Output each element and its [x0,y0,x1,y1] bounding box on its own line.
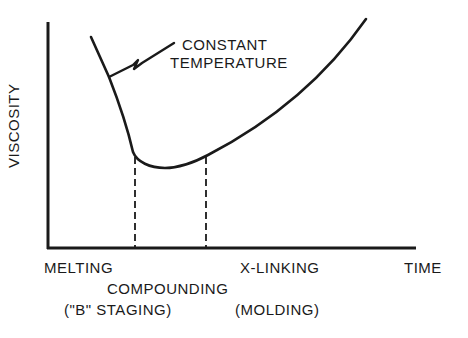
phase-label-compounding-sub: ("B" STAGING) [64,302,172,317]
annotation-line2: TEMPERATURE [170,55,288,70]
x-axis-label: TIME [404,260,442,275]
annotation-leader-line [109,43,174,77]
annotation-line1: CONSTANT [182,37,267,52]
y-axis-label: VISCOSITY [6,83,21,168]
phase-label-compounding: COMPOUNDING [107,281,228,296]
viscosity-time-diagram: VISCOSITY CONSTANT TEMPERATURE MELTING C… [0,0,468,338]
phase-label-xlinking: X-LINKING [240,260,320,275]
phase-label-melting: MELTING [44,260,113,275]
phase-label-xlinking-sub: (MOLDING) [235,302,320,317]
